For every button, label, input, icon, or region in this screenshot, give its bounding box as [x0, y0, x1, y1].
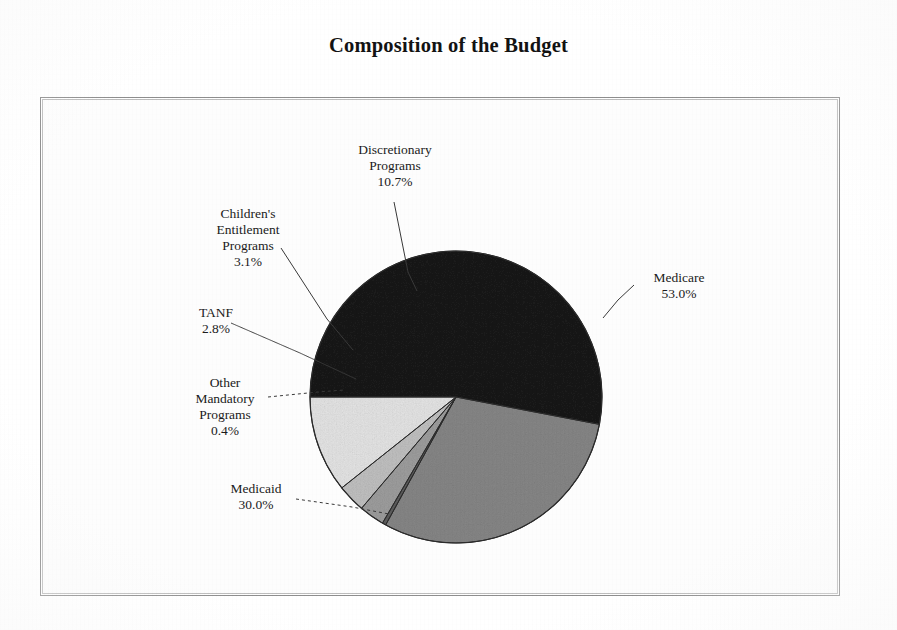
- slice-value: 53.0%: [627, 286, 731, 302]
- slice-label-line: TANF: [199, 305, 233, 320]
- slice-label-line: Entitlement: [217, 222, 280, 237]
- slice-value: 30.0%: [204, 497, 308, 513]
- slice-value: 3.1%: [184, 254, 312, 270]
- slice-label-line: Discretionary: [358, 142, 431, 157]
- slice-label-discretionary-programs: Discretionary Programs 10.7%: [322, 142, 468, 190]
- slice-label-line: Medicare: [654, 270, 705, 285]
- slice-label-line: Programs: [199, 407, 251, 422]
- slice-label-line: Programs: [369, 158, 421, 173]
- slice-label-tanf: TANF 2.8%: [168, 305, 264, 337]
- pie-chart: [0, 0, 897, 630]
- slice-label-medicare: Medicare 53.0%: [627, 270, 731, 302]
- slice-label-line: Medicaid: [231, 481, 282, 496]
- slice-label-other-mandatory-programs: Other Mandatory Programs 0.4%: [166, 375, 284, 439]
- slice-label-line: Children's: [221, 206, 276, 221]
- slice-label-line: Programs: [222, 238, 274, 253]
- slice-label-line: Other: [210, 375, 241, 390]
- slice-value: 10.7%: [322, 174, 468, 190]
- slice-label-childrens-entitlement-programs: Children's Entitlement Programs 3.1%: [184, 206, 312, 270]
- slice-value: 0.4%: [166, 423, 284, 439]
- slice-label-medicaid: Medicaid 30.0%: [204, 481, 308, 513]
- slice-label-line: Mandatory: [195, 391, 254, 406]
- page-title: Composition of the Budget: [0, 34, 897, 57]
- slice-value: 2.8%: [168, 321, 264, 337]
